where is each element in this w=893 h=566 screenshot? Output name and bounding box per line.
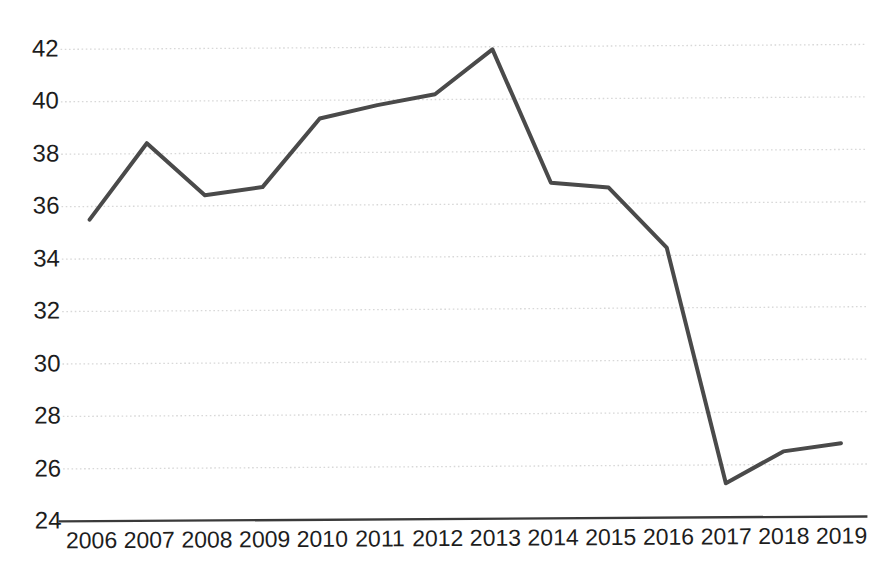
y-axis-tick-labels: 24262830323436384042 xyxy=(10,2,61,566)
y-tick-label-28: 28 xyxy=(17,403,61,427)
x-tick-label-2017: 2017 xyxy=(701,525,752,548)
gridline-y-28 xyxy=(63,412,867,417)
gridline-y-32 xyxy=(62,307,866,312)
gridline-y-42 xyxy=(61,44,865,49)
gridline-y-40 xyxy=(61,97,865,102)
y-tick-label-42: 42 xyxy=(14,36,58,60)
gridline-y-34 xyxy=(62,254,866,259)
x-tick-label-2019: 2019 xyxy=(816,524,867,547)
x-axis-line xyxy=(58,516,867,521)
gridline-y-26 xyxy=(63,464,867,469)
data-series xyxy=(89,47,842,487)
line-chart: 24262830323436384042 2006200720082009201… xyxy=(0,0,893,566)
gridline-y-36 xyxy=(62,202,866,207)
gridline-y-30 xyxy=(62,359,866,364)
axis-lines xyxy=(58,516,867,521)
chart-skew-layer: 24262830323436384042 2006200720082009201… xyxy=(0,0,893,566)
x-tick-label-2006: 2006 xyxy=(66,529,117,552)
x-tick-label-2009: 2009 xyxy=(239,528,290,551)
x-tick-label-2014: 2014 xyxy=(527,526,578,549)
x-tick-label-2012: 2012 xyxy=(412,527,463,550)
x-tick-label-2018: 2018 xyxy=(758,525,809,548)
y-tick-label-26: 26 xyxy=(17,456,61,480)
y-tick-label-38: 38 xyxy=(15,141,59,165)
gridlines xyxy=(61,44,868,468)
y-tick-label-36: 36 xyxy=(15,194,59,218)
y-tick-label-30: 30 xyxy=(16,351,60,375)
y-tick-label-32: 32 xyxy=(16,299,60,323)
y-tick-label-34: 34 xyxy=(16,246,60,270)
x-tick-label-2008: 2008 xyxy=(181,528,232,551)
x-tick-label-2007: 2007 xyxy=(124,529,175,552)
series-line-path xyxy=(89,47,842,487)
x-tick-label-2011: 2011 xyxy=(355,527,405,550)
y-tick-label-40: 40 xyxy=(15,89,59,113)
x-axis-tick-labels: 2006200720082009201020112012201320142015… xyxy=(1,524,893,565)
x-tick-label-2013: 2013 xyxy=(470,527,521,550)
x-tick-label-2010: 2010 xyxy=(297,528,348,551)
x-tick-label-2016: 2016 xyxy=(643,525,694,548)
gridline-y-38 xyxy=(61,149,865,154)
x-tick-label-2015: 2015 xyxy=(585,526,636,549)
plot-area xyxy=(0,0,893,566)
